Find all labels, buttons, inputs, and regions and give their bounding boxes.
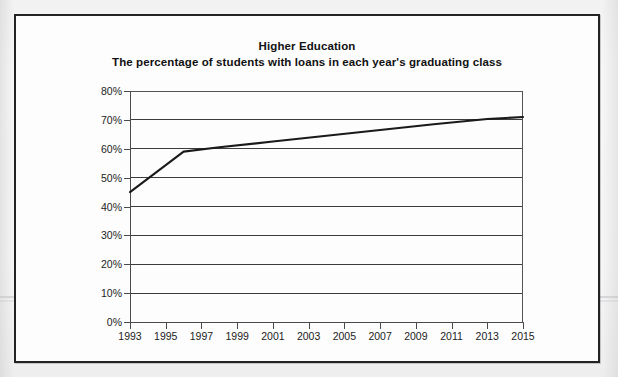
x-axis-tick-label: 2005 — [333, 330, 356, 342]
x-axis-tick-label: 2009 — [404, 330, 427, 342]
x-axis-tick — [237, 323, 238, 329]
x-axis-tick-label: 2011 — [440, 330, 463, 342]
x-axis-tick-label: 2013 — [476, 330, 499, 342]
x-axis-tick-label: 2001 — [261, 330, 284, 342]
y-axis-tick-label: 70% — [82, 114, 122, 126]
y-axis-tick-label: 80% — [82, 85, 122, 97]
x-axis-tick-label: 1997 — [190, 330, 213, 342]
y-axis-tick-label: 10% — [82, 287, 122, 299]
x-axis-tick — [201, 323, 202, 329]
y-axis-tick-label: 40% — [82, 201, 122, 213]
line-chart: 0%10%20%30%40%50%60%70%80% 1993199519971… — [16, 16, 602, 365]
y-axis-tick-label: 0% — [82, 316, 122, 328]
x-axis-tick-label: 2007 — [368, 330, 391, 342]
y-axis-tick-label: 60% — [82, 143, 122, 155]
x-axis-tick — [344, 323, 345, 329]
scanned-page-background: Higher Education The percentage of stude… — [0, 0, 618, 377]
x-axis-tick — [166, 323, 167, 329]
x-axis-line — [130, 322, 524, 323]
x-axis-tick — [380, 323, 381, 329]
x-axis-tick — [487, 323, 488, 329]
x-axis-tick — [523, 323, 524, 329]
x-axis-tick — [130, 323, 131, 329]
chart-frame: Higher Education The percentage of stude… — [14, 14, 600, 363]
x-axis-tick-label: 1999 — [225, 330, 248, 342]
x-axis-tick — [416, 323, 417, 329]
x-axis-tick — [309, 323, 310, 329]
data-series-layer — [130, 91, 523, 322]
y-axis-labels: 0%10%20%30%40%50%60%70%80% — [76, 16, 122, 365]
x-axis-tick-label: 1995 — [154, 330, 177, 342]
x-axis-tick-label: 1993 — [118, 330, 141, 342]
x-axis-tick — [452, 323, 453, 329]
x-axis-tick — [273, 323, 274, 329]
y-axis-tick-label: 20% — [82, 258, 122, 270]
y-axis-tick-label: 50% — [82, 172, 122, 184]
series-line-students-with-loans — [130, 117, 523, 192]
x-axis-tick-label: 2015 — [511, 330, 534, 342]
x-axis-tick-label: 2003 — [297, 330, 320, 342]
y-axis-tick-label: 30% — [82, 229, 122, 241]
